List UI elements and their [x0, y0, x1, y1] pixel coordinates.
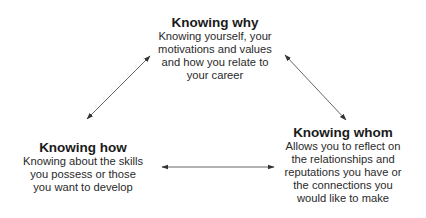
node-description: Knowing about the skills you possess or …	[3, 155, 163, 194]
description-line: the connections you	[262, 179, 424, 192]
description-line: would like to make	[262, 192, 424, 205]
node-knowing-why: Knowing why Knowing yourself, your motiv…	[135, 15, 295, 82]
node-title: Knowing whom	[262, 125, 424, 140]
node-description: Knowing yourself, your motivations and v…	[135, 30, 295, 82]
description-line: Knowing yourself, your	[135, 30, 295, 43]
node-description: Allows you to reflect on the relationshi…	[262, 140, 424, 205]
description-line: and how you relate to	[135, 56, 295, 69]
description-line: your career	[135, 69, 295, 82]
node-title: Knowing how	[3, 140, 163, 155]
description-line: you want to develop	[3, 181, 163, 194]
description-line: the relationships and	[262, 153, 424, 166]
description-line: reputations you have or	[262, 166, 424, 179]
node-knowing-how: Knowing how Knowing about the skills you…	[3, 140, 163, 194]
description-line: Allows you to reflect on	[262, 140, 424, 153]
description-line: motivations and values	[135, 43, 295, 56]
node-knowing-whom: Knowing whom Allows you to reflect on th…	[262, 125, 424, 205]
node-title: Knowing why	[135, 15, 295, 30]
description-line: you possess or those	[3, 168, 163, 181]
description-line: Knowing about the skills	[3, 155, 163, 168]
